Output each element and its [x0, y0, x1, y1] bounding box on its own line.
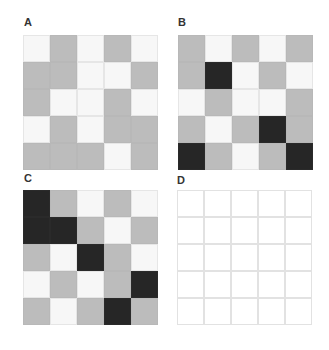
grid-cell	[131, 298, 158, 325]
panel-label-a: A	[24, 16, 32, 28]
grid-cell	[204, 298, 231, 325]
grid-cell	[104, 62, 131, 89]
grid-cell	[104, 244, 131, 271]
grid-cell	[177, 244, 204, 271]
grid-cell	[104, 298, 131, 325]
grid-cell	[231, 217, 258, 244]
grid-cell	[232, 62, 259, 89]
grid-cell	[23, 271, 50, 298]
grid-cell	[77, 116, 104, 143]
grid-cell	[177, 190, 204, 217]
grid-cell	[104, 271, 131, 298]
grid-cell	[205, 62, 232, 89]
grid-cell	[104, 89, 131, 116]
grid-cell	[177, 271, 204, 298]
grid-cell	[285, 190, 312, 217]
grid-cell	[23, 35, 50, 62]
grid-cell	[104, 217, 131, 244]
grid-cell	[232, 143, 259, 170]
grid-cell	[178, 116, 205, 143]
grid-cell	[259, 116, 286, 143]
grid-cell	[178, 89, 205, 116]
grid-cell	[285, 271, 312, 298]
grid-cell	[50, 190, 77, 217]
grid-cell	[204, 271, 231, 298]
grid-cell	[231, 271, 258, 298]
grid-cell	[205, 143, 232, 170]
grid-cell	[131, 217, 158, 244]
grid-cell	[50, 62, 77, 89]
grid-cell	[258, 190, 285, 217]
grid-cell	[77, 271, 104, 298]
grid-cell	[50, 298, 77, 325]
grid-cell	[131, 143, 158, 170]
grid-cell	[177, 217, 204, 244]
grid-cell	[231, 244, 258, 271]
grid-cell	[23, 62, 50, 89]
panel-label-d: D	[177, 174, 185, 186]
grid-cell	[205, 116, 232, 143]
panel-label-b: B	[178, 16, 186, 28]
grid-cell	[23, 116, 50, 143]
grid-cell	[231, 298, 258, 325]
grid-cell	[77, 244, 104, 271]
grid-cell	[131, 116, 158, 143]
grid-cell	[259, 62, 286, 89]
grid-cell	[286, 62, 313, 89]
grid-c	[23, 190, 158, 325]
grid-cell	[77, 89, 104, 116]
grid-cell	[50, 116, 77, 143]
grid-cell	[50, 244, 77, 271]
grid-cell	[259, 143, 286, 170]
grid-cell	[178, 35, 205, 62]
grid-cell	[131, 190, 158, 217]
grid-cell	[23, 143, 50, 170]
grid-cell	[285, 244, 312, 271]
grid-cell	[258, 244, 285, 271]
grid-d	[177, 190, 312, 325]
grid-cell	[232, 116, 259, 143]
grid-cell	[77, 62, 104, 89]
grid-cell	[204, 190, 231, 217]
grid-cell	[232, 35, 259, 62]
grid-cell	[286, 35, 313, 62]
grid-cell	[50, 35, 77, 62]
grid-cell	[23, 217, 50, 244]
grid-cell	[131, 62, 158, 89]
grid-cell	[258, 271, 285, 298]
grid-cell	[23, 190, 50, 217]
grid-cell	[258, 298, 285, 325]
grid-cell	[104, 143, 131, 170]
grid-cell	[204, 217, 231, 244]
grid-cell	[77, 35, 104, 62]
grid-cell	[131, 89, 158, 116]
grid-cell	[286, 89, 313, 116]
grid-cell	[205, 89, 232, 116]
grid-a	[23, 35, 158, 170]
grid-cell	[286, 116, 313, 143]
grid-cell	[104, 35, 131, 62]
grid-cell	[50, 143, 77, 170]
grid-b	[178, 35, 313, 170]
grid-cell	[231, 190, 258, 217]
grid-cell	[259, 89, 286, 116]
grid-cell	[259, 35, 286, 62]
grid-cell	[204, 244, 231, 271]
grid-cell	[23, 244, 50, 271]
grid-cell	[205, 35, 232, 62]
grid-cell	[104, 190, 131, 217]
grid-cell	[50, 217, 77, 244]
grid-cell	[258, 217, 285, 244]
grid-cell	[77, 143, 104, 170]
grid-cell	[285, 298, 312, 325]
grid-cell	[104, 116, 131, 143]
grid-cell	[77, 217, 104, 244]
grid-cell	[50, 89, 77, 116]
grid-cell	[177, 298, 204, 325]
grid-cell	[50, 271, 77, 298]
grid-cell	[131, 271, 158, 298]
grid-cell	[23, 89, 50, 116]
grid-cell	[77, 298, 104, 325]
grid-cell	[23, 298, 50, 325]
grid-cell	[131, 244, 158, 271]
